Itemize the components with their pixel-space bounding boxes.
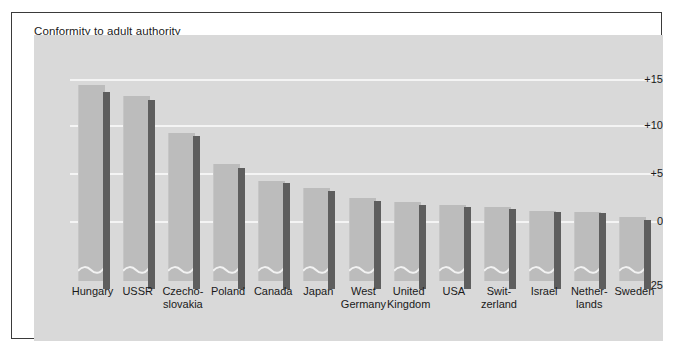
x-axis-labels: HungaryUSSRCzecho-slovakiaPolandCanadaJa… [70,285,657,341]
x-axis-label-line: Sweden [608,285,661,298]
chart-figure: Conformity to adult authority +15+10+50-… [0,0,676,352]
bar-dark [238,168,245,289]
axis-break-squiggle [168,265,194,274]
bar-dark [419,205,426,289]
bar-dark [644,220,651,289]
x-axis-label-line: zerland [472,298,525,311]
bar-dark [283,183,290,289]
bar-dark [103,92,110,289]
bar-dark [148,100,155,289]
bar-dark [554,212,561,290]
x-axis-label-line: Kingdom [382,298,435,311]
bar-dark [328,191,335,289]
bar-light [213,164,240,281]
bar-light [168,133,195,281]
axis-break-squiggle [484,265,510,274]
axis-break-squiggle [394,265,420,274]
axis-break-squiggle [349,265,375,274]
axis-break-squiggle [574,265,600,274]
bar-light [123,96,150,281]
bar-dark [193,136,200,290]
axis-break-squiggle [439,265,465,274]
axis-break-squiggle [258,265,284,274]
bar-dark [599,213,606,289]
bar-dark [374,201,381,289]
axis-break-squiggle [213,265,239,274]
axis-break-squiggle [303,265,329,274]
x-axis-label-line: slovakia [156,298,209,311]
x-axis-label-line: lands [563,298,616,311]
x-axis-label: Sweden [608,285,661,298]
bar-light [78,85,105,281]
bar-dark [464,207,471,289]
axis-break-squiggle [78,265,104,274]
axis-break-squiggle [619,265,645,274]
axis-break-squiggle [123,265,149,274]
plot-area: +15+10+50-25 HungaryUSSRCzecho-slovakiaP… [34,35,663,341]
axis-break-squiggle [529,265,555,274]
bar-dark [509,209,516,289]
chart-frame-border: Conformity to adult authority +15+10+50-… [11,12,662,339]
